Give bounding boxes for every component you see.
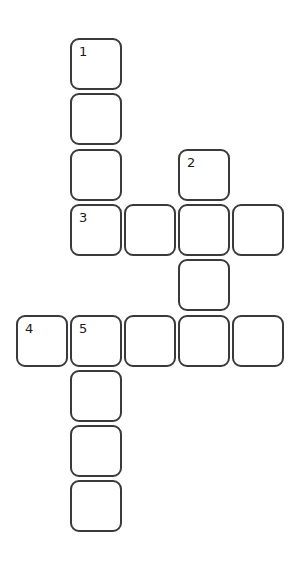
crossword-cell[interactable] [70,425,122,477]
crossword-cell[interactable] [178,315,230,367]
cell-letter-input[interactable] [72,40,120,88]
cell-letter-input[interactable] [126,206,174,254]
crossword-cell[interactable]: 5 [70,315,122,367]
crossword-cell[interactable] [70,149,122,201]
cell-letter-input[interactable] [72,206,120,254]
crossword-cell[interactable] [70,480,122,532]
cell-letter-input[interactable] [72,95,120,143]
crossword-cell[interactable]: 2 [178,149,230,201]
crossword-cell[interactable]: 1 [70,38,122,90]
cell-letter-input[interactable] [180,206,228,254]
cell-letter-input[interactable] [72,372,120,420]
cell-letter-input[interactable] [126,317,174,365]
crossword-cell[interactable] [178,204,230,256]
cell-letter-input[interactable] [234,317,282,365]
cell-letter-input[interactable] [234,206,282,254]
cell-letter-input[interactable] [180,317,228,365]
crossword-cell[interactable] [70,93,122,145]
crossword-cell[interactable] [178,259,230,311]
crossword-cell[interactable] [124,315,176,367]
cell-letter-input[interactable] [180,261,228,309]
crossword-cell[interactable]: 3 [70,204,122,256]
crossword-grid: 12345 [0,0,300,568]
crossword-cell[interactable] [124,204,176,256]
cell-letter-input[interactable] [72,151,120,199]
cell-letter-input[interactable] [72,482,120,530]
crossword-cell[interactable] [232,204,284,256]
crossword-cell[interactable]: 4 [16,315,68,367]
cell-letter-input[interactable] [180,151,228,199]
crossword-cell[interactable] [232,315,284,367]
cell-letter-input[interactable] [72,317,120,365]
cell-letter-input[interactable] [72,427,120,475]
cell-letter-input[interactable] [18,317,66,365]
crossword-cell[interactable] [70,370,122,422]
